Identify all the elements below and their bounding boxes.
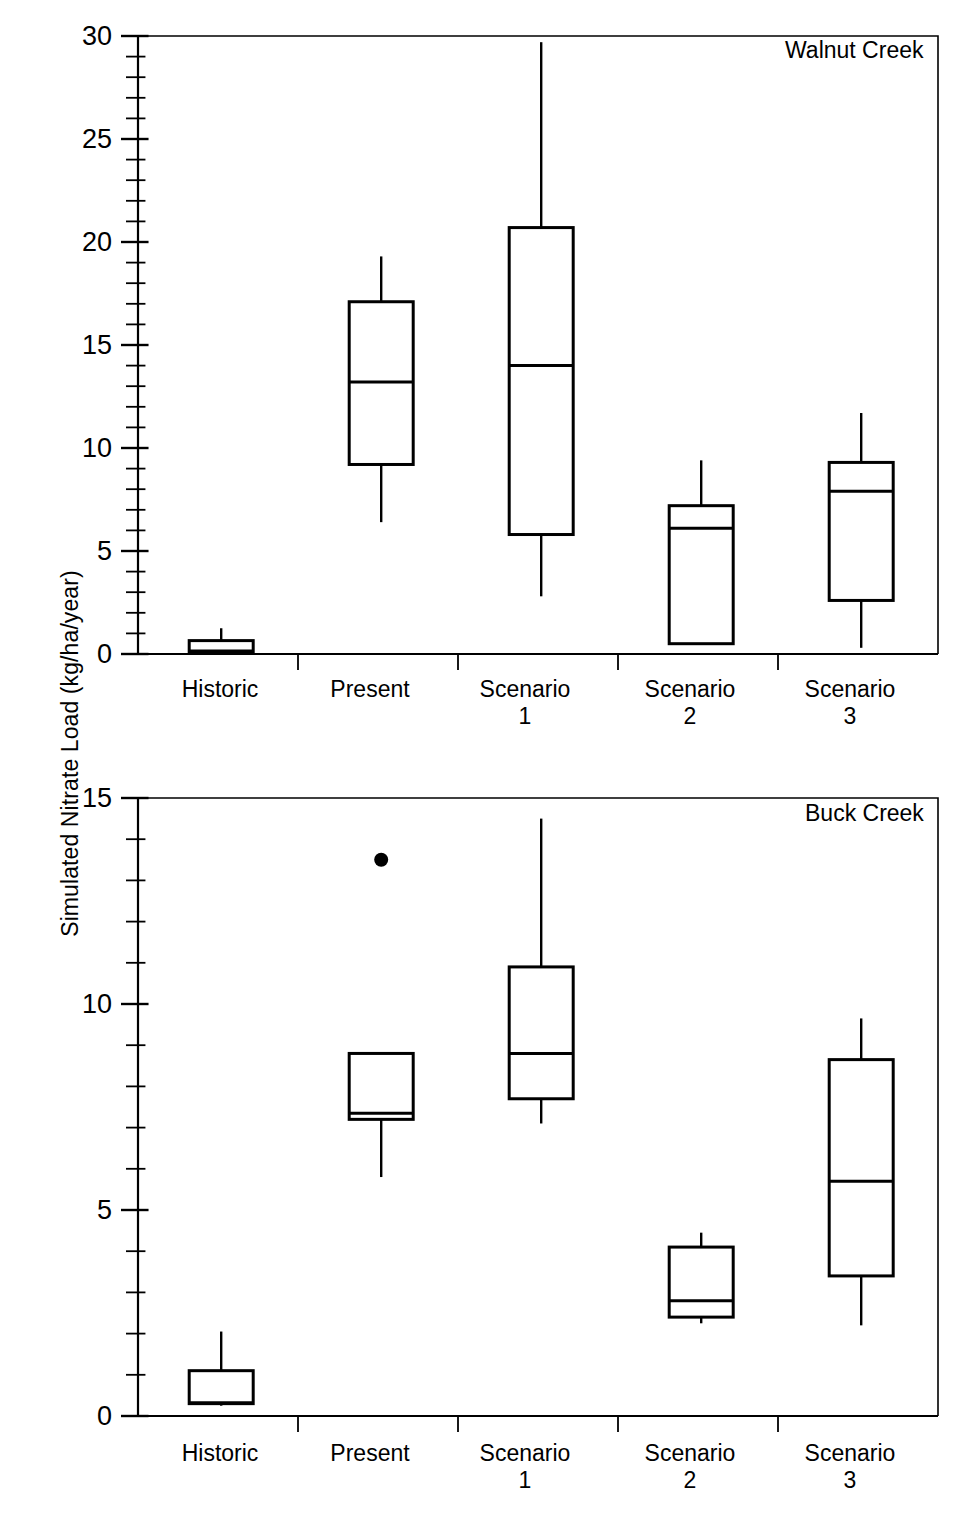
box-iqr (509, 228, 573, 535)
y-tick-label: 5 (97, 536, 112, 566)
box-iqr (189, 1371, 253, 1404)
x-tick-label-present-top: Present (300, 676, 440, 703)
y-tick-label: 15 (82, 330, 112, 360)
buck-creek-plot: 051015 (62, 782, 952, 1432)
box-plot-scenario-2 (669, 460, 733, 644)
y-tick-label: 5 (97, 1195, 112, 1225)
walnut-creek-plot: 051015202530 (62, 20, 952, 670)
panel-buck-creek: 051015 (62, 782, 952, 1432)
box-plot-scenario-1 (509, 819, 573, 1124)
x-tick-label-scenario2-bottom: Scenario 2 (620, 1440, 760, 1494)
y-tick-label: 0 (97, 1401, 112, 1431)
y-tick-label: 10 (82, 989, 112, 1019)
x-tick-label-scenario1-top: Scenario 1 (455, 676, 595, 730)
y-tick-label: 25 (82, 124, 112, 154)
x-tick-label-historic-bottom: Historic (150, 1440, 290, 1467)
y-tick-label: 30 (82, 21, 112, 51)
x-tick-label-historic-top: Historic (150, 676, 290, 703)
box-plot-scenario-1 (509, 42, 573, 596)
outlier-point (374, 853, 388, 867)
panel-walnut-creek: 051015202530 (62, 20, 952, 670)
panel-label-walnut-creek: Walnut Creek (785, 37, 923, 64)
y-tick-label: 15 (82, 783, 112, 813)
box-iqr (829, 462, 893, 600)
box-iqr (829, 1060, 893, 1276)
box-plot-scenario-3 (829, 1018, 893, 1325)
y-tick-label: 0 (97, 639, 112, 669)
box-plot-scenario-3 (829, 413, 893, 648)
box-iqr (349, 1053, 413, 1119)
box-iqr (509, 967, 573, 1099)
panel-label-buck-creek: Buck Creek (805, 800, 924, 827)
box-iqr (669, 1247, 733, 1317)
box-plot-scenario-2 (669, 1233, 733, 1324)
x-tick-label-scenario2-top: Scenario 2 (620, 676, 760, 730)
box-plot-historic (189, 1332, 253, 1406)
box-iqr (669, 506, 733, 644)
figure-root: Simulated Nitrate Load (kg/ha/year) 0510… (0, 0, 958, 1535)
box-plot-present (349, 256, 413, 522)
box-plot-historic (189, 628, 253, 654)
x-tick-label-present-bottom: Present (300, 1440, 440, 1467)
box-plot-present (349, 853, 413, 1177)
plot-frame (138, 798, 938, 1416)
y-tick-label: 20 (82, 227, 112, 257)
x-tick-label-scenario3-bottom: Scenario 3 (780, 1440, 920, 1494)
x-tick-label-scenario3-top: Scenario 3 (780, 676, 920, 730)
y-tick-label: 10 (82, 433, 112, 463)
x-tick-label-scenario1-bottom: Scenario 1 (455, 1440, 595, 1494)
